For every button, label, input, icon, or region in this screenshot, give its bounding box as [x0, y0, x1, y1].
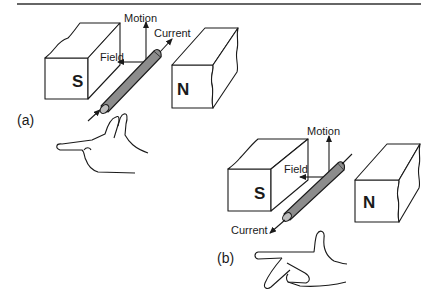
right-hand-a [57, 114, 148, 173]
north-pole-label-a: N [177, 81, 189, 98]
south-pole-label-b: S [254, 185, 265, 202]
panel-b-label: (b) [217, 251, 234, 265]
right-hand-b [255, 231, 347, 288]
motion-label-b: Motion [307, 126, 340, 137]
north-pole-label-b: N [363, 194, 375, 211]
current-label-a: Current [154, 28, 191, 39]
south-magnet-b [228, 139, 308, 211]
field-label-a: Field [100, 52, 124, 63]
field-label-b: Field [284, 164, 308, 175]
motion-label-a: Motion [124, 13, 157, 24]
panel-a-label: (a) [17, 113, 34, 127]
current-label-b: Current [231, 225, 268, 236]
panel-a [45, 22, 238, 173]
south-pole-label-a: S [72, 73, 83, 90]
panel-b [228, 136, 420, 288]
